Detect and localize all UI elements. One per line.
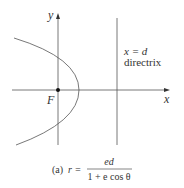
- caption-lhs: r =: [68, 164, 81, 175]
- parabola-curve: [14, 38, 79, 145]
- focus-point: [56, 88, 60, 92]
- x-axis-label: x: [163, 92, 170, 106]
- caption-numerator: ed: [104, 156, 114, 167]
- y-axis-arrow-icon: [56, 13, 60, 19]
- directrix-label: directrix: [124, 56, 162, 68]
- caption-prefix: (a): [52, 164, 63, 176]
- caption-denominator: 1 + e cos θ: [87, 171, 130, 182]
- polar-conic-diagram: y x F x = d directrix (a) r = ed 1 + e c…: [0, 0, 184, 188]
- focus-label: F: [46, 93, 55, 107]
- diagram-canvas: y x F x = d directrix (a) r = ed 1 + e c…: [0, 0, 184, 188]
- y-axis-label: y: [47, 8, 54, 22]
